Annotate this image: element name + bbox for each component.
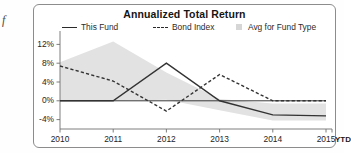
chart-svg xyxy=(34,5,337,149)
y-tick-label: -4% xyxy=(20,115,54,123)
x-tick-label: 2014 xyxy=(253,135,293,143)
margin-glyph: f xyxy=(2,14,5,26)
y-tick-label: 12% xyxy=(20,40,54,48)
y-tick-label: 8% xyxy=(20,59,54,67)
x-tick-label: 2013 xyxy=(200,135,240,143)
plot-area: 12%8%4%0%-4% 201020112012201320142015YTD xyxy=(34,5,337,149)
x-tick-label: 2012 xyxy=(146,135,186,143)
chart-card: Annualized Total Return This Fund Bond I… xyxy=(33,4,336,148)
x-tick-label: 2010 xyxy=(40,135,80,143)
x-tick-label: 2011 xyxy=(93,135,133,143)
x-tick-label-ytd: YTD xyxy=(335,136,351,144)
y-tick-label: 0% xyxy=(20,96,54,104)
y-tick-label: 4% xyxy=(20,78,54,86)
